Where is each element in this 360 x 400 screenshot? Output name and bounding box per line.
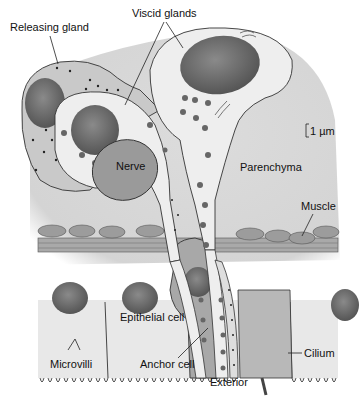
label-cilium: Cilium <box>304 347 335 359</box>
scale-bar-label: 1 µm <box>310 125 335 137</box>
label-anchor-cell: Anchor cell <box>140 358 194 370</box>
label-exterior: Exterior <box>210 376 248 388</box>
label-parenchyma: Parenchyma <box>240 161 303 173</box>
label-epithelial-cell: Epithelial cell <box>120 311 184 323</box>
duo-gland-diagram: Releasing gland Viscid glands 1 µm Nerve… <box>0 0 360 400</box>
microvilli <box>40 378 336 382</box>
epithelial-nucleus <box>52 282 88 314</box>
epithelial-nucleus <box>122 282 158 314</box>
label-muscle: Muscle <box>301 200 336 212</box>
cilium <box>262 378 266 395</box>
label-viscid-glands: Viscid glands <box>132 7 197 19</box>
label-nerve: Nerve <box>116 160 145 172</box>
epithelial-nucleus <box>331 289 359 321</box>
label-microvilli: Microvilli <box>50 358 92 370</box>
label-releasing-gland: Releasing gland <box>10 21 89 33</box>
